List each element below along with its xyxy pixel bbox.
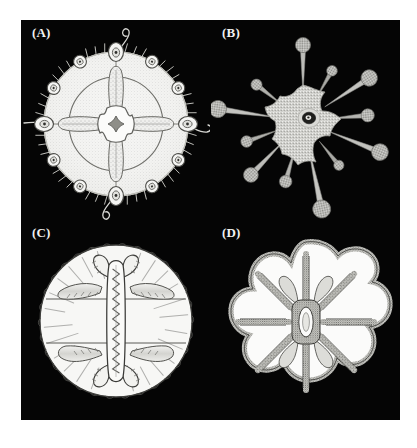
panel-c: (C) <box>21 220 210 420</box>
panel-d-label: (D) <box>222 226 241 239</box>
figure-root: (A) <box>0 0 417 448</box>
panel-c-illustration <box>21 220 210 420</box>
panel-d-illustration <box>211 220 400 420</box>
panel-d: (D) <box>211 220 400 420</box>
panel-b: (B) <box>211 20 400 220</box>
panel-b-label: (B) <box>222 26 240 39</box>
panel-a-label: (A) <box>32 26 51 39</box>
panel-a: (A) <box>21 20 210 220</box>
panel-a-illustration <box>21 20 210 220</box>
panel-c-label: (C) <box>32 226 51 239</box>
figure-plate: (A) <box>21 20 400 420</box>
panel-b-illustration <box>211 20 400 220</box>
